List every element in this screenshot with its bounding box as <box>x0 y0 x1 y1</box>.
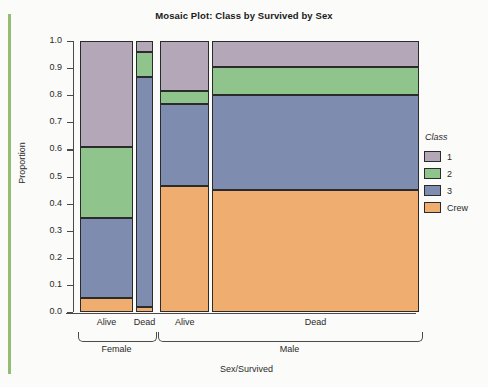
mosaic-tile <box>80 41 133 147</box>
chart-page: Mosaic Plot: Class by Survived by Sex Pr… <box>0 0 488 387</box>
y-axis-tick-label: 0.9 <box>28 62 62 72</box>
y-axis-tick-label: 0.0 <box>28 306 62 316</box>
mosaic-column <box>136 41 153 312</box>
x-axis-tick-label: Dead <box>182 317 449 327</box>
y-axis-tick-label: 0.3 <box>28 225 62 235</box>
y-axis-tick-label: 0.5 <box>28 171 62 181</box>
legend-label: 1 <box>447 152 452 162</box>
x-axis-title: Sex/Survived <box>80 364 413 374</box>
y-axis-tick <box>67 231 73 232</box>
x-axis-line <box>66 313 416 314</box>
y-axis-tick <box>67 258 73 259</box>
mosaic-tile <box>136 307 153 312</box>
legend-item[interactable]: Crew <box>424 199 468 216</box>
y-axis-tick-label: 0.2 <box>28 252 62 262</box>
mosaic-tile <box>160 41 209 91</box>
y-axis-tick <box>67 122 73 123</box>
mosaic-tile <box>80 298 133 312</box>
y-axis-tick <box>67 68 73 69</box>
mosaic-column <box>80 41 133 312</box>
mosaic-tile <box>212 190 419 312</box>
y-axis-tick <box>67 204 73 205</box>
y-axis-tick-label: 0.7 <box>28 116 62 126</box>
legend-swatch <box>424 168 441 179</box>
y-axis-line <box>73 41 74 312</box>
y-axis-tick-label: 0.1 <box>28 279 62 289</box>
legend-swatch <box>424 151 441 162</box>
y-axis-tick <box>67 177 73 178</box>
legend-label: 3 <box>447 186 452 196</box>
legend-item[interactable]: 2 <box>424 165 468 182</box>
mosaic-tile <box>80 218 133 299</box>
mosaic-column <box>160 41 209 312</box>
legend-item[interactable]: 3 <box>424 182 468 199</box>
y-axis-tick-label: 1.0 <box>28 35 62 45</box>
mosaic-tile <box>212 67 419 95</box>
mosaic-tile <box>136 41 153 52</box>
mosaic-tile <box>80 147 133 218</box>
x-group-bracket <box>158 332 423 342</box>
mosaic-tile <box>212 95 419 190</box>
mosaic-column <box>212 41 419 312</box>
y-axis-title: Proportion <box>17 118 27 208</box>
y-axis-tick <box>67 41 73 42</box>
x-group-label: Male <box>130 344 449 354</box>
legend-item[interactable]: 1 <box>424 148 468 165</box>
mosaic-plot-area <box>80 41 413 312</box>
y-axis-tick-label: 0.6 <box>28 143 62 153</box>
legend-swatch <box>424 185 441 196</box>
legend-label: 2 <box>447 169 452 179</box>
y-axis-tick <box>67 149 73 150</box>
legend-title: Class <box>424 132 468 142</box>
y-axis-tick <box>67 95 73 96</box>
mosaic-tile <box>136 52 153 77</box>
legend: Class 123Crew <box>424 132 468 216</box>
legend-swatch <box>424 202 441 213</box>
page-title: Mosaic Plot: Class by Survived by Sex <box>0 10 488 21</box>
mosaic-tile <box>136 77 153 307</box>
x-group-bracket <box>78 332 157 342</box>
y-axis-tick <box>67 285 73 286</box>
mosaic-tile <box>160 104 209 186</box>
mosaic-tile <box>160 186 209 312</box>
y-axis-tick-label: 0.8 <box>28 89 62 99</box>
legend-label: Crew <box>447 203 468 213</box>
legend-entries: 123Crew <box>424 148 468 216</box>
mosaic-tile <box>160 91 209 104</box>
y-axis-tick-label: 0.4 <box>28 198 62 208</box>
mosaic-tile <box>212 41 419 67</box>
scan-edge-artifact <box>8 14 11 374</box>
